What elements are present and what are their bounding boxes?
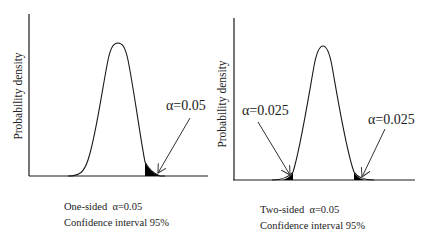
- density-curve: [68, 43, 165, 176]
- alpha-label-left: α=0.025: [242, 103, 289, 118]
- arrow-icon: [258, 122, 290, 175]
- caption-confidence: Confidence interval 95%: [64, 217, 169, 228]
- y-axis-label: Probability density: [12, 52, 25, 139]
- one-sided-panel: Probability density α=0.05 One-sided α=0…: [12, 14, 208, 228]
- arrow-icon: [362, 129, 385, 177]
- rejection-region-right: [145, 162, 160, 176]
- y-axis-label: Probability density: [216, 60, 229, 147]
- caption-test-type: One-sided α=0.05: [64, 201, 142, 212]
- caption-confidence: Confidence interval 95%: [260, 220, 365, 231]
- alpha-label-right: α=0.025: [368, 112, 415, 127]
- hypothesis-test-figure: Probability density α=0.05 One-sided α=0…: [0, 0, 425, 242]
- alpha-label: α=0.05: [166, 98, 206, 113]
- two-sided-panel: Probability density α=0.025 α=0.025 Two-…: [216, 18, 415, 231]
- arrow-icon: [158, 118, 190, 173]
- caption-test-type: Two-sided α=0.05: [260, 204, 339, 215]
